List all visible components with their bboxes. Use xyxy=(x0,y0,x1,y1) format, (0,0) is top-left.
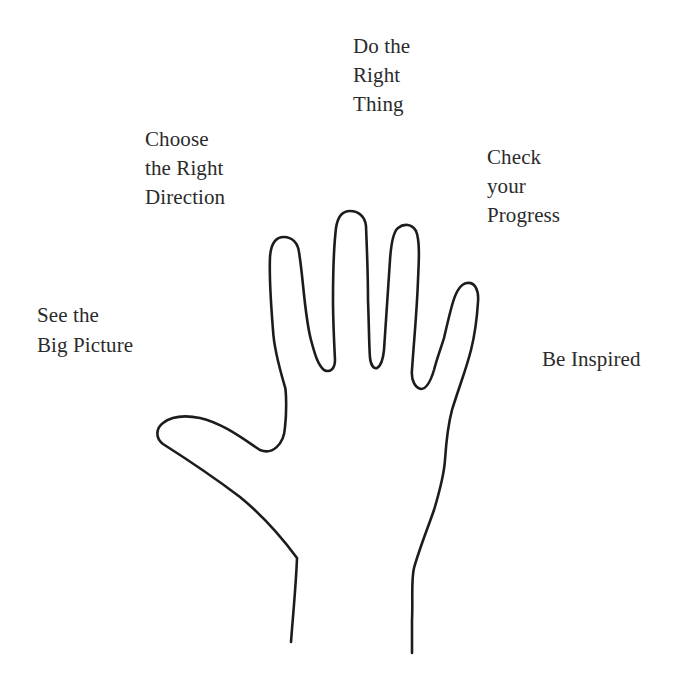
label-line: your xyxy=(487,172,560,201)
label-line: Progress xyxy=(487,201,560,230)
label-line: Thing xyxy=(353,90,410,119)
label-line: Big Picture xyxy=(37,330,133,360)
label-line: the Right xyxy=(145,154,225,183)
label-check-your-progress: Check your Progress xyxy=(487,143,560,230)
label-line: Do the xyxy=(353,32,410,61)
hand-outline-path xyxy=(157,211,478,653)
label-line: Choose xyxy=(145,125,225,154)
label-line: Direction xyxy=(145,183,225,212)
label-line: Be Inspired xyxy=(542,345,641,374)
label-do-the-right-thing: Do the Right Thing xyxy=(353,32,410,119)
label-line: See the xyxy=(37,300,133,330)
label-line: Check xyxy=(487,143,560,172)
label-choose-the-right-direction: Choose the Right Direction xyxy=(145,125,225,212)
label-see-the-big-picture: See the Big Picture xyxy=(37,300,133,360)
hand-diagram: See the Big Picture Choose the Right Dir… xyxy=(0,0,692,686)
label-be-inspired: Be Inspired xyxy=(542,345,641,374)
label-line: Right xyxy=(353,61,410,90)
